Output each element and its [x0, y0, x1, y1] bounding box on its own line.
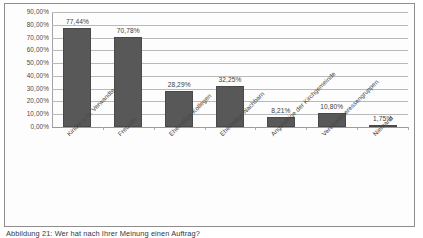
x-axis-tick: [255, 127, 256, 130]
bar-chart: 0,00%10,00%20,00%30,00%40,00%50,00%60,00…: [0, 0, 423, 238]
x-axis-category-labels: Kinder u./o. VerwandteFreundeEhemalige K…: [0, 0, 423, 238]
x-axis-tick: [408, 127, 409, 130]
x-axis-tick: [205, 127, 206, 130]
x-axis-tick: [154, 127, 155, 130]
x-axis-tick: [306, 127, 307, 130]
x-axis-category-label: Vereine/Interessengruppen: [321, 79, 380, 138]
figure-caption: Abbildung 21: Wer hat nach Ihrer Meinung…: [6, 230, 200, 238]
x-axis-category-label: Ehemalige Kollegen: [168, 93, 213, 138]
x-axis-category-label: Kinder u./o. Verwandte: [66, 87, 116, 137]
x-axis-tick: [357, 127, 358, 130]
x-axis-category-label: Freunde: [117, 116, 138, 137]
x-axis-category-label: Niemand: [372, 115, 395, 138]
x-axis-category-label: Ehemalige Nachbarn: [219, 91, 266, 138]
x-axis-tick: [103, 127, 104, 130]
